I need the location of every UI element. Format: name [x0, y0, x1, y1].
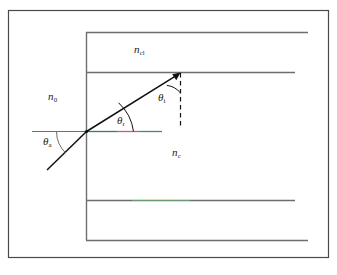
ray-entry-point-dot	[85, 130, 88, 133]
incidence-angle-label: θi	[158, 92, 165, 103]
core-refractive-index-label: nc	[172, 147, 181, 158]
refraction-angle-label: θr	[117, 115, 125, 126]
figure-root: ncl n0 nc θa θr θi	[0, 0, 337, 275]
acceptance-angle-label: θa	[43, 136, 51, 147]
external-medium-refractive-index-label: n0	[48, 91, 57, 102]
cladding-refractive-index-label: ncl	[134, 44, 144, 55]
